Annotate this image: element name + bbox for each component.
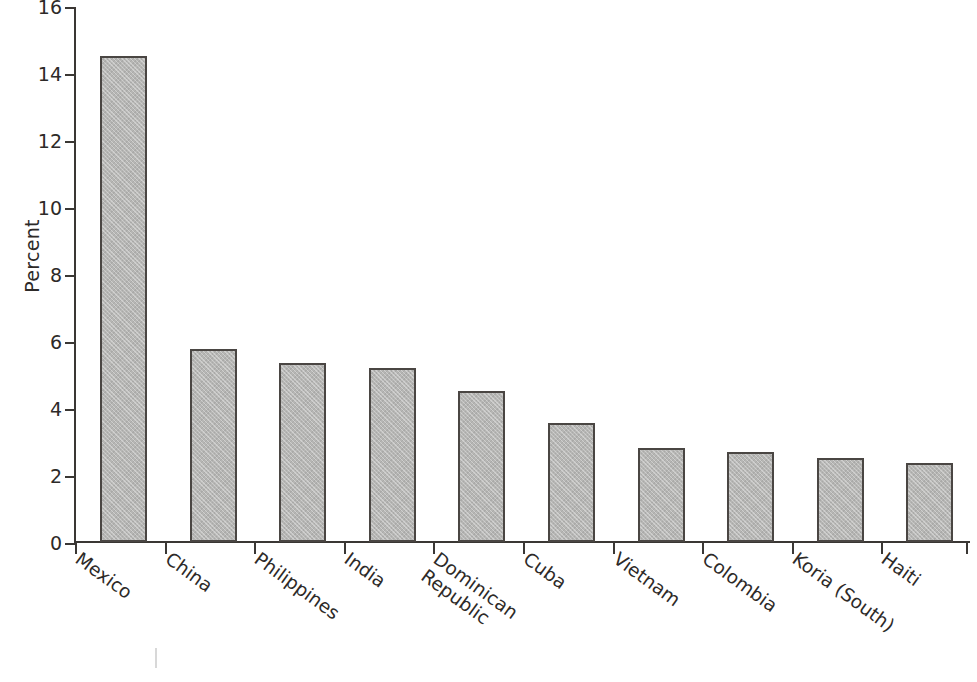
plot-area <box>74 7 970 543</box>
x-tick-label: India <box>340 548 389 592</box>
y-tick-mark-4 <box>65 409 75 411</box>
x-axis-tick-labels: MexicoChinaPhilippinesIndiaDominicanRepu… <box>74 548 970 682</box>
bar <box>369 368 416 542</box>
y-tick-mark-14 <box>65 74 75 76</box>
x-tick-label: Mexico <box>72 548 137 603</box>
y-tick-mark-0 <box>65 543 75 545</box>
y-tick-mark-10 <box>65 208 75 210</box>
x-tick-label: Philippines <box>251 548 344 624</box>
y-tick-mark-12 <box>65 141 75 143</box>
bar <box>638 448 685 542</box>
y-tick-label-16: 16 <box>36 0 62 18</box>
y-tick-label-14: 14 <box>36 63 62 85</box>
x-tick-label: Vietnam <box>609 548 684 610</box>
bar <box>817 458 864 542</box>
y-axis-tick-labels: 0246810121416 <box>18 0 62 682</box>
y-tick-label-6: 6 <box>36 331 62 353</box>
x-tick-label: DominicanRepublic <box>418 548 523 640</box>
y-tick-mark-2 <box>65 476 75 478</box>
x-tick-label: Colombia <box>699 548 782 616</box>
x-tick-label: Cuba <box>520 548 571 593</box>
y-tick-mark-8 <box>65 275 75 277</box>
y-tick-mark-16 <box>65 7 75 9</box>
y-tick-label-4: 4 <box>36 398 62 420</box>
y-tick-mark-6 <box>65 342 75 344</box>
y-tick-label-2: 2 <box>36 465 62 487</box>
bar-chart: Percent 0246810121416 MexicoChinaPhilipp… <box>0 0 977 682</box>
x-tick-label: China <box>161 548 216 596</box>
y-tick-label-0: 0 <box>36 532 62 554</box>
y-tick-label-8: 8 <box>36 264 62 286</box>
bar <box>906 463 953 542</box>
bar <box>279 363 326 542</box>
scan-artifact-mark <box>155 648 157 668</box>
y-tick-label-10: 10 <box>36 197 62 219</box>
y-tick-label-12: 12 <box>36 130 62 152</box>
bar <box>548 423 595 542</box>
bar <box>458 391 505 542</box>
bar <box>190 349 237 542</box>
bar <box>727 452 774 542</box>
x-tick-label: Haiti <box>878 548 925 590</box>
bar <box>100 56 147 542</box>
